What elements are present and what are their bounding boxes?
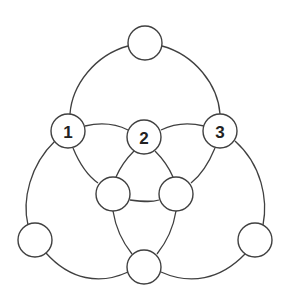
arc-innerleft-bottom xyxy=(113,211,132,254)
node-bottom[interactable] xyxy=(127,250,161,284)
arc-bottomleft-bottom xyxy=(46,253,128,279)
node-bottom-left[interactable] xyxy=(18,223,52,257)
arc-2-3 xyxy=(161,124,204,130)
arc-1-innerleft xyxy=(73,148,98,183)
node-2[interactable]: 2 xyxy=(127,120,161,154)
arc-1-2 xyxy=(85,124,128,130)
node-3[interactable]: 3 xyxy=(203,114,237,148)
arc-2-innerright xyxy=(155,151,173,177)
node-label-1: 1 xyxy=(63,123,72,142)
arc-innerright-bottom xyxy=(157,211,176,254)
arc-inner xyxy=(130,200,159,202)
puzzle-diagram: 1 2 3 xyxy=(0,0,289,304)
arc-top-left xyxy=(70,46,128,114)
arc-3-bottomright xyxy=(235,141,265,225)
node-1[interactable]: 1 xyxy=(51,114,85,148)
arc-3-innerright xyxy=(191,148,215,183)
node-label-2: 2 xyxy=(139,129,148,148)
node-bottom-right[interactable] xyxy=(238,223,272,257)
node-inner-right[interactable] xyxy=(159,177,193,211)
node-label-3: 3 xyxy=(215,123,224,142)
node-inner-left[interactable] xyxy=(96,177,130,211)
node-top[interactable] xyxy=(128,26,162,60)
arc-bottomright-bottom xyxy=(161,254,245,279)
arc-top-right xyxy=(162,46,220,114)
arc-1-bottomleft xyxy=(26,141,55,225)
arc-2-innerleft xyxy=(116,151,134,177)
